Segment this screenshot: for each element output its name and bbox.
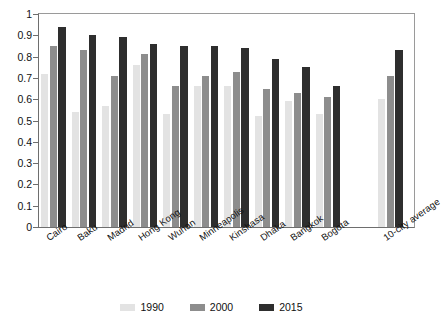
bar-1990-dhaka <box>255 116 262 227</box>
legend-swatch-2000 <box>190 304 205 311</box>
bar-1990-bogota <box>316 114 323 227</box>
legend-swatch-1990 <box>120 304 135 311</box>
x-axis-labels: CairoBakuMadridHong KongWuhanMinneapolis… <box>0 228 423 290</box>
y-axis-tick-label: 0.5 <box>17 115 32 127</box>
bar-2000-dhaka <box>263 89 270 227</box>
legend-label-2015: 2015 <box>279 301 302 313</box>
bar-1990-minneapolis <box>194 86 201 227</box>
bar-2015-10-city-average <box>395 50 402 227</box>
legend-item-2000: 2000 <box>190 301 233 313</box>
y-axis-tick-label: 0.6 <box>17 93 32 105</box>
bar-group <box>255 14 280 227</box>
plot-area <box>39 14 414 227</box>
bar-2000-baku <box>80 50 87 227</box>
bar-1990-bangkok <box>285 101 292 227</box>
bar-1990-cairo <box>41 74 48 227</box>
y-axis-tick-label: 0.2 <box>17 178 32 190</box>
bar-1990-madrid <box>102 106 109 227</box>
y-axis-tick-label: 0.8 <box>17 51 32 63</box>
bar-group <box>72 14 97 227</box>
legend-swatch-2015 <box>259 304 274 311</box>
bar-2000-10-city-average <box>387 76 394 227</box>
bar-1990-hong-kong <box>133 65 140 227</box>
bar-2015-cairo <box>58 27 65 227</box>
y-axis-tick-label: 1 <box>26 8 32 20</box>
legend-label-2000: 2000 <box>210 301 233 313</box>
bar-group <box>194 14 219 227</box>
bar-1990-kinshasa <box>224 86 231 227</box>
bar-2000-cairo <box>50 46 57 227</box>
y-axis-tick-label: 0.4 <box>17 136 32 148</box>
bar-group <box>41 14 66 227</box>
bar-2000-bogota <box>324 97 331 227</box>
y-axis-tick-label: 0.9 <box>17 29 32 41</box>
y-axis-tick-label: 0.3 <box>17 157 32 169</box>
bar-2000-madrid <box>111 76 118 227</box>
bar-1990-10-city-average <box>378 99 385 227</box>
bar-group <box>133 14 158 227</box>
bar-2000-minneapolis <box>202 76 209 227</box>
bar-group <box>316 14 341 227</box>
bar-2015-madrid <box>119 37 126 227</box>
bar-2000-bangkok <box>294 93 301 227</box>
bar-group <box>378 14 403 227</box>
bar-2015-hong-kong <box>150 44 157 227</box>
bar-2015-bogota <box>333 86 340 227</box>
bar-group <box>224 14 249 227</box>
bar-2015-minneapolis <box>211 46 218 227</box>
y-axis-tick-label: 0.7 <box>17 72 32 84</box>
bar-1990-baku <box>72 112 79 227</box>
y-axis: 00.10.20.30.40.50.60.70.80.91 <box>0 0 38 243</box>
bar-group <box>163 14 188 227</box>
bar-2015-bangkok <box>302 67 309 227</box>
bar-group <box>285 14 310 227</box>
chart-legend: 1990 2000 2015 <box>0 297 423 317</box>
bar-2015-dhaka <box>272 59 279 227</box>
bar-group <box>102 14 127 227</box>
legend-item-2015: 2015 <box>259 301 302 313</box>
bar-2015-wuhan <box>180 46 187 227</box>
y-axis-tick-label: 0.1 <box>17 200 32 212</box>
bar-2000-hong-kong <box>141 54 148 227</box>
legend-item-1990: 1990 <box>120 301 163 313</box>
legend-label-1990: 1990 <box>140 301 163 313</box>
bar-2015-baku <box>89 35 96 227</box>
bar-2015-kinshasa <box>241 48 248 227</box>
